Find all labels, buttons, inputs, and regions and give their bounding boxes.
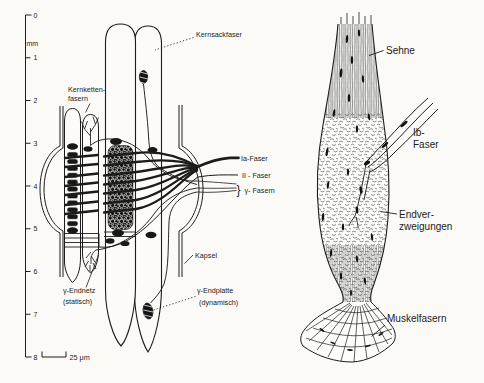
right-diagram: Sehne Ib- Faser Endver- zweigungen Muske… bbox=[301, 12, 453, 362]
muscle-spindle-figure: 0 mm 1 2 3 4 5 6 7 8 25 μm bbox=[0, 0, 484, 383]
ruler-tick-2: 2 bbox=[34, 97, 38, 104]
label-endver-2: zweigungen bbox=[399, 221, 452, 232]
label-ib-2: Faser bbox=[413, 139, 439, 150]
label-kernsackfaser: Kernsackfaser bbox=[196, 30, 243, 39]
ruler-tick-4: 4 bbox=[34, 183, 38, 190]
kernketten-pointer bbox=[86, 104, 91, 113]
label-endnetz-2: (statisch) bbox=[63, 297, 92, 306]
label-ib-1: Ib- bbox=[413, 127, 425, 138]
tendon-organ-body bbox=[314, 12, 396, 302]
ruler-tick-0: 0 bbox=[34, 12, 38, 19]
ruler-tick-8: 8 bbox=[34, 354, 38, 361]
label-endplatte-2: (dynamisch) bbox=[199, 298, 238, 307]
label-gamma-fasern: γ- Fasern bbox=[245, 186, 275, 195]
lower-striation-texture bbox=[314, 245, 396, 302]
label-endver-1: Endver- bbox=[399, 209, 434, 220]
ruler-line bbox=[26, 15, 32, 357]
label-endnetz-1: γ-Endnetz bbox=[63, 286, 96, 295]
muscle-fiber-fan bbox=[301, 302, 396, 362]
tendon-top-fray bbox=[341, 12, 371, 24]
label-kernketten-1: Kernketten- bbox=[68, 85, 106, 94]
scale-bar: 25 μm bbox=[42, 352, 90, 363]
ruler-tick-6: 6 bbox=[34, 268, 38, 275]
label-gamma-brace: } bbox=[237, 183, 241, 197]
scale-bar-label: 25 μm bbox=[70, 353, 90, 362]
label-muskelfasern: Muskelfasern bbox=[387, 313, 446, 324]
label-endplatte-1: γ-Endplatte bbox=[197, 286, 233, 295]
label-kernketten-2: fasern bbox=[68, 94, 88, 103]
ruler-unit: mm bbox=[27, 40, 39, 47]
ruler-tick-5: 5 bbox=[34, 225, 38, 232]
label-ia-faser: Ia-Faser bbox=[241, 154, 268, 163]
label-ii-faser: II - Faser bbox=[242, 171, 271, 180]
scale-bar-bracket bbox=[42, 352, 66, 358]
ia-fiber-line bbox=[197, 158, 239, 167]
mm-ruler: 0 mm 1 2 3 4 5 6 7 8 bbox=[26, 12, 39, 361]
ruler-tick-7: 7 bbox=[34, 311, 38, 318]
ruler-tick-1: 1 bbox=[34, 54, 38, 61]
label-sehne: Sehne bbox=[386, 45, 415, 56]
left-diagram: 0 mm 1 2 3 4 5 6 7 8 25 μm bbox=[26, 12, 275, 363]
kapsel-pointer bbox=[185, 255, 194, 264]
label-kapsel: Kapsel bbox=[195, 251, 217, 260]
ruler-tick-3: 3 bbox=[34, 140, 38, 147]
